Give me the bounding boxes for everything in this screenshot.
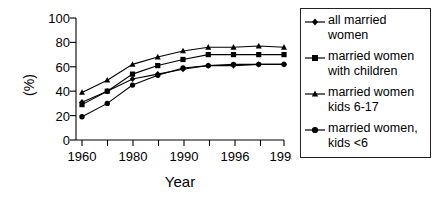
y-tick-labels: 100 80 60 40 20 0 <box>48 11 70 148</box>
data-point-marker <box>206 63 211 68</box>
y-tick-label: 80 <box>56 35 70 50</box>
data-point-marker <box>105 89 110 94</box>
y-tick-label: 40 <box>56 84 70 99</box>
legend-item: married women with children <box>304 49 427 84</box>
plot-area: (%) 100 80 60 40 20 0 <box>0 0 292 206</box>
data-point-marker <box>231 62 236 67</box>
data-point-marker <box>281 62 286 67</box>
y-tick-label: 20 <box>56 109 70 124</box>
data-point-marker <box>180 65 185 70</box>
series-line <box>82 55 284 105</box>
legend-item: all married women <box>304 13 427 48</box>
square-marker-icon <box>304 50 326 66</box>
data-point-marker <box>79 102 84 107</box>
data-series-layer <box>79 43 287 120</box>
y-axis-ticks <box>70 18 76 140</box>
data-point-marker <box>281 52 286 57</box>
triangle-marker-icon <box>304 86 326 102</box>
data-point-marker <box>105 101 110 106</box>
y-tick-label: 60 <box>56 60 70 75</box>
x-axis-ticks <box>82 140 284 146</box>
data-point-marker <box>79 114 84 119</box>
x-tick-label: 1960 <box>68 149 97 164</box>
y-axis-title: (%) <box>21 74 37 96</box>
data-point-marker <box>180 57 185 62</box>
y-tick-label: 100 <box>48 11 70 26</box>
legend-item-label: married women with children <box>328 49 414 79</box>
y-tick-label: 0 <box>63 133 70 148</box>
legend-item: married women, kids <6 <box>304 121 427 156</box>
data-point-marker <box>231 52 236 57</box>
x-axis-title: Year <box>165 173 195 190</box>
data-point-marker <box>130 82 135 87</box>
diamond-marker-icon <box>304 14 326 30</box>
line-chart-svg: (%) 100 80 60 40 20 0 <box>0 0 292 206</box>
data-series <box>79 52 286 107</box>
data-point-marker <box>155 73 160 78</box>
data-point-marker <box>79 89 85 95</box>
data-point-marker <box>130 76 136 82</box>
data-point-marker <box>206 52 211 57</box>
x-tick-label: 1980 <box>119 149 148 164</box>
data-point-marker <box>104 77 110 83</box>
x-tick-label: 1990 <box>170 149 199 164</box>
data-point-marker <box>256 52 261 57</box>
chart-figure: (%) 100 80 60 40 20 0 <box>0 0 440 206</box>
x-tick-label: 1998 <box>270 149 292 164</box>
data-point-marker <box>155 63 160 68</box>
data-series <box>79 62 286 120</box>
chart-legend: all married women married women with chi… <box>300 8 431 158</box>
circle-marker-icon <box>304 122 326 138</box>
legend-item-label: married women, kids <6 <box>328 121 418 151</box>
data-point-marker <box>130 72 135 77</box>
data-point-marker <box>256 62 261 67</box>
x-tick-label: 1996 <box>221 149 250 164</box>
legend-item: married women kids 6-17 <box>304 85 427 120</box>
legend-item-label: married women kids 6-17 <box>328 85 414 115</box>
legend-item-label: all married women <box>328 13 386 43</box>
x-tick-labels: 1960 1980 1990 1996 1998 <box>68 149 292 164</box>
